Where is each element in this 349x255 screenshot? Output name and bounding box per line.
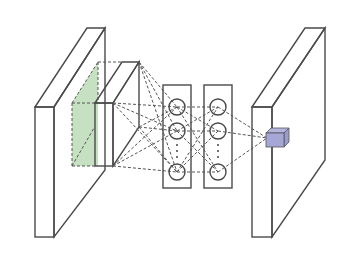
output-voxel-cube	[266, 128, 289, 147]
ellipsis-dots	[176, 144, 178, 158]
network-diagram	[0, 0, 349, 255]
ellipsis-dots	[217, 144, 219, 158]
fc-layer-2	[204, 85, 232, 188]
fc1-to-fc2-connections	[177, 107, 218, 172]
conv-feature-block	[95, 62, 139, 166]
input-receptive-field	[72, 62, 122, 166]
conv-to-fc-connections	[113, 62, 177, 172]
fc-to-output-connections	[218, 107, 267, 172]
fc-layer-1-nodes	[169, 99, 185, 180]
